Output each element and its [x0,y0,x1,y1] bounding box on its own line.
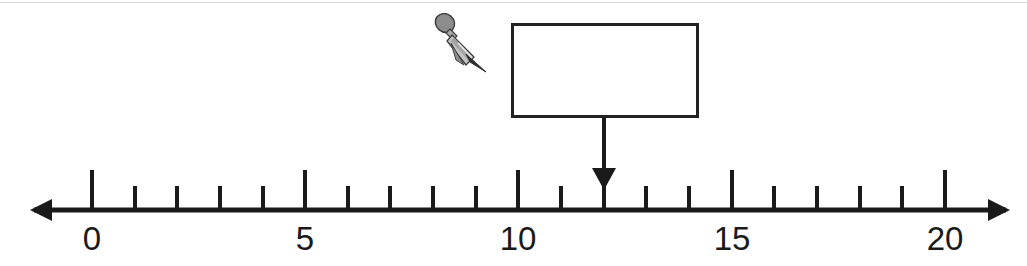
tick-label-10: 10 [478,222,558,255]
tick-label-15: 15 [692,222,772,255]
tick-label-5: 5 [265,222,345,255]
pen-nib-tip [466,54,486,72]
callout-box[interactable] [511,23,699,118]
number-line-diagram: 0 5 10 15 20 [0,0,1027,266]
tick-label-0: 0 [52,222,132,255]
axis-arrow-left [30,199,52,221]
pen-barrel-knob [432,10,459,36]
pen-nib-icon[interactable] [430,10,492,78]
tick-label-20: 20 [905,222,985,255]
pointer-arrow-head [592,168,616,190]
axis-arrow-right [988,199,1010,221]
callout-pointer-arrow [592,118,616,190]
